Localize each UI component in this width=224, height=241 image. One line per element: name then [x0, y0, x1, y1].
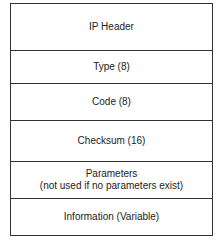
- field-type: Type (8): [11, 51, 212, 84]
- field-code: Code (8): [11, 84, 212, 121]
- field-information: Information (Variable): [11, 199, 212, 235]
- field-parameters: Parameters (not used if no parameters ex…: [11, 162, 212, 199]
- field-label: Checksum (16): [78, 135, 146, 147]
- field-label: Information (Variable): [64, 211, 159, 223]
- packet-format-diagram: IP Header Type (8) Code (8) Checksum (16…: [10, 3, 213, 236]
- field-checksum: Checksum (16): [11, 121, 212, 162]
- field-label: Parameters: [86, 168, 138, 180]
- field-label: Code (8): [92, 96, 131, 108]
- field-label: IP Header: [89, 21, 134, 33]
- field-label: Type (8): [93, 61, 130, 73]
- field-ip-header: IP Header: [11, 4, 212, 51]
- field-sublabel: (not used if no parameters exist): [40, 180, 183, 192]
